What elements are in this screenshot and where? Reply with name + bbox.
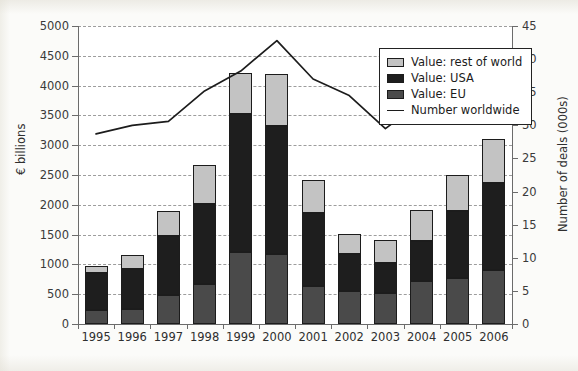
x-tick-label: 1995 [81, 330, 110, 344]
x-tick-label: 2002 [335, 330, 364, 344]
legend-swatch-eu-icon [387, 90, 404, 99]
y-tick-label-left: 0 [62, 317, 69, 331]
x-tick-label: 2004 [407, 330, 436, 344]
x-tick-label: 1999 [226, 330, 255, 344]
y-tick-label-right: 0 [522, 317, 529, 331]
x-tick-label: 2005 [443, 330, 472, 344]
legend-label: Value: EU [411, 87, 466, 101]
x-tick-label: 2001 [298, 330, 327, 344]
axis-line-bottom [78, 324, 512, 325]
legend-item-line: Number worldwide [387, 102, 522, 118]
y-tick-label-left: 2000 [40, 198, 69, 212]
x-tick-label: 1996 [118, 330, 147, 344]
y-tick-label-right: 20 [522, 185, 537, 199]
y-tick-label-left: 2500 [40, 168, 69, 182]
legend-label: Value: USA [411, 71, 474, 85]
y-tick-label-right: 10 [522, 251, 537, 265]
legend-label: Value: rest of world [411, 55, 522, 69]
chart-legend: Value: rest of worldValue: USAValue: EUN… [379, 48, 532, 125]
x-tick-label: 2000 [262, 330, 291, 344]
y-tick-label-right: 5 [522, 284, 529, 298]
y-tick-label-right: 45 [522, 19, 537, 33]
y-tick-label-right: 25 [522, 151, 537, 165]
legend-item-row: Value: rest of world [387, 54, 522, 70]
y-tick-label-left: 1500 [40, 228, 69, 242]
x-tick-label: 1998 [190, 330, 219, 344]
y-tick-label-left: 500 [47, 287, 69, 301]
legend-swatch-row-icon [387, 58, 404, 67]
y-tick-label-left: 4000 [40, 79, 69, 93]
legend-item-usa: Value: USA [387, 70, 522, 86]
y-tick-label-left: 1000 [40, 257, 69, 271]
y-tick-label-left: 3500 [40, 108, 69, 122]
legend-item-eu: Value: EU [387, 86, 522, 102]
y-tick-label-right: 15 [522, 218, 537, 232]
y-axis-title-left: € billions [14, 124, 28, 175]
y-tick-label-left: 3000 [40, 138, 69, 152]
plot-area: 0500100015002000250030003500400045005000… [78, 26, 512, 324]
legend-label: Number worldwide [411, 103, 520, 117]
legend-swatch-usa-icon [387, 74, 404, 83]
x-tick [512, 324, 513, 329]
y-tick-label-left: 4500 [40, 49, 69, 63]
chart-page: € billions Number of deals (000s) 050010… [0, 0, 578, 371]
y-axis-title-right: Number of deals (000s) [556, 96, 570, 232]
axis-line-left [78, 26, 79, 324]
y-tick-label-left: 5000 [40, 19, 69, 33]
x-tick-label: 2003 [371, 330, 400, 344]
x-tick-label: 1997 [154, 330, 183, 344]
legend-swatch-line-icon [387, 110, 404, 111]
x-tick-label: 2006 [479, 330, 508, 344]
